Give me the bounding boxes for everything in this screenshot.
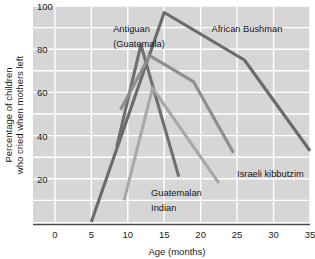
x-tick-label: 30 bbox=[268, 229, 279, 240]
chart-container: 05101520253035 20406080100 Antiguan(Guat… bbox=[0, 0, 315, 259]
x-tick-label: 0 bbox=[52, 229, 57, 240]
series-annotation-label: Indian bbox=[151, 203, 176, 213]
series-annotation-label: Guatemalan bbox=[151, 188, 202, 198]
x-tick-label: 35 bbox=[305, 229, 315, 240]
x-tick-label: 10 bbox=[122, 229, 133, 240]
series-annotation-label: Antiguan bbox=[113, 24, 150, 34]
y-tick-label: 60 bbox=[37, 87, 48, 98]
x-tick-label: 15 bbox=[159, 229, 170, 240]
x-axis-title: Age (months) bbox=[148, 246, 205, 257]
y-axis-title-line-2: who cried when mothers left bbox=[14, 56, 25, 176]
x-tick-label: 25 bbox=[232, 229, 243, 240]
x-axis-tick-labels: 05101520253035 bbox=[52, 229, 315, 240]
y-tick-label: 100 bbox=[37, 1, 53, 12]
series-annotation-label: African Bushman bbox=[212, 24, 283, 34]
y-tick-label: 40 bbox=[37, 131, 48, 142]
series-annotation-label: (Guatemala) bbox=[113, 39, 165, 49]
series-annotation-label: Israeli kibbutzim bbox=[237, 169, 304, 179]
line-chart: 05101520253035 20406080100 Antiguan(Guat… bbox=[0, 0, 315, 259]
x-tick-label: 5 bbox=[89, 229, 94, 240]
y-axis-title-line-1: Percentage of children bbox=[3, 67, 14, 162]
y-tick-label: 20 bbox=[37, 174, 48, 185]
y-tick-label: 80 bbox=[37, 44, 48, 55]
x-tick-label: 20 bbox=[195, 229, 206, 240]
